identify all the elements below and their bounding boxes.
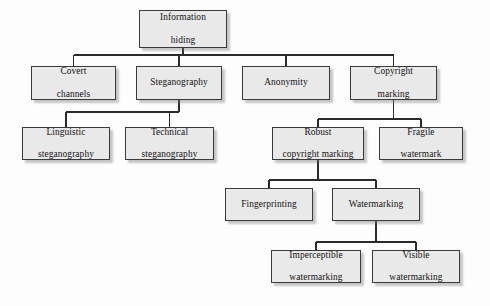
node-copyright-marking[interactable]: Copyrightmarking bbox=[350, 66, 437, 100]
node-linguistic-steganography[interactable]: Linguisticsteganography bbox=[22, 127, 110, 160]
node-covert-channels[interactable]: Covertchannels bbox=[31, 66, 116, 100]
node-robust-copyright-marking[interactable]: Robustcopyright marking bbox=[272, 127, 364, 160]
node-label-watermarking: Watermarking bbox=[347, 199, 406, 210]
node-information-hiding[interactable]: Informationhiding bbox=[139, 10, 227, 48]
node-anonymity[interactable]: Anonymity bbox=[242, 66, 330, 100]
node-label-imperceptible-watermarking: Imperceptiblewatermarking bbox=[285, 250, 346, 283]
information-hiding-taxonomy-diagram: Informationhiding Covertchannels Stegano… bbox=[0, 0, 490, 306]
node-label-copyright-marking: Copyrightmarking bbox=[370, 66, 417, 99]
node-steganography[interactable]: Steganography bbox=[136, 66, 222, 100]
node-technical-steganography[interactable]: Technicalsteganography bbox=[125, 127, 214, 160]
node-label-covert-channels: Covertchannels bbox=[53, 66, 95, 99]
node-label-steganography: Steganography bbox=[148, 77, 210, 88]
node-label-linguistic-steganography: Linguisticsteganography bbox=[34, 127, 98, 160]
node-label-technical-steganography: Technicalsteganography bbox=[138, 127, 202, 160]
node-label-visible-watermarking: Visiblewatermarking bbox=[385, 250, 446, 283]
node-label-fingerprinting: Fingerprinting bbox=[239, 199, 299, 210]
node-label-information-hiding: Informationhiding bbox=[156, 12, 210, 45]
node-visible-watermarking[interactable]: Visiblewatermarking bbox=[372, 250, 460, 283]
node-label-robust-copyright-marking: Robustcopyright marking bbox=[278, 127, 357, 160]
node-fragile-watermark[interactable]: Fragilewatermark bbox=[379, 127, 463, 160]
node-fingerprinting[interactable]: Fingerprinting bbox=[225, 188, 313, 221]
node-watermarking[interactable]: Watermarking bbox=[332, 188, 420, 221]
node-imperceptible-watermarking[interactable]: Imperceptiblewatermarking bbox=[271, 250, 361, 283]
node-label-fragile-watermark: Fragilewatermark bbox=[397, 127, 446, 160]
node-label-anonymity: Anonymity bbox=[262, 77, 310, 88]
